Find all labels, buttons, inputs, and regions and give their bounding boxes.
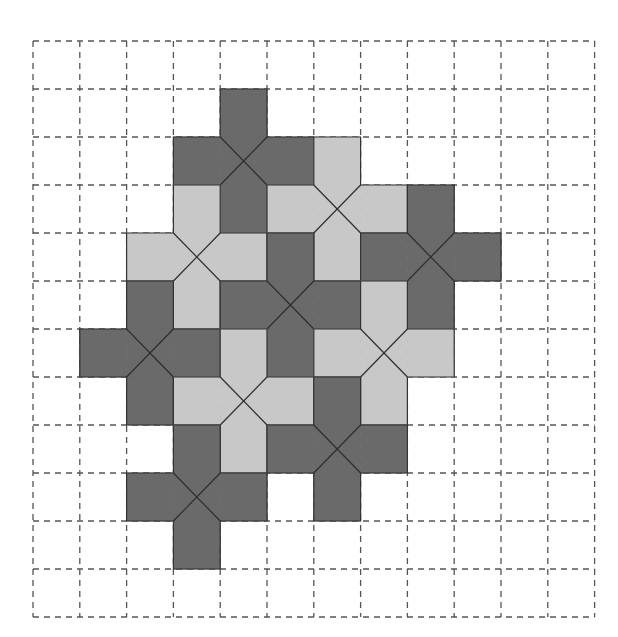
piece-cell: [173, 425, 220, 473]
piece-cell: [220, 185, 267, 233]
piece-cell: [173, 329, 220, 377]
piece-cell: [173, 281, 220, 329]
piece-cell: [407, 281, 454, 329]
piece-cell: [267, 185, 314, 233]
piece-cell: [361, 377, 408, 425]
piece-cell: [407, 329, 454, 377]
piece-cell: [407, 185, 454, 233]
piece-cell: [454, 233, 501, 281]
piece-cell: [220, 425, 267, 473]
piece-cell: [127, 233, 174, 281]
piece-cell: [173, 377, 220, 425]
piece-cell: [173, 185, 220, 233]
piece-cell: [267, 137, 314, 185]
piece-cell: [267, 425, 314, 473]
tiling-board: [0, 0, 618, 637]
piece-cell: [314, 137, 361, 185]
piece-cell: [361, 185, 408, 233]
piece-cell: [267, 377, 314, 425]
piece-cell: [220, 233, 267, 281]
piece-cell: [314, 233, 361, 281]
piece-cell: [173, 137, 220, 185]
piece-cell: [220, 281, 267, 329]
piece-cell: [314, 281, 361, 329]
piece-cell: [314, 377, 361, 425]
piece-cell: [314, 473, 361, 521]
piece-cell: [267, 233, 314, 281]
piece-cell: [80, 329, 127, 377]
piece-cell: [361, 233, 408, 281]
piece-cell: [220, 89, 267, 137]
piece-cell: [314, 329, 361, 377]
piece-cell: [267, 329, 314, 377]
piece-cell: [361, 425, 408, 473]
piece-cell: [127, 377, 174, 425]
piece-cell: [173, 521, 220, 569]
piece-cell: [361, 281, 408, 329]
piece-cell: [127, 473, 174, 521]
piece-cell: [220, 329, 267, 377]
cross-pieces: [80, 89, 501, 569]
piece-cell: [220, 473, 267, 521]
piece-cell: [127, 281, 174, 329]
